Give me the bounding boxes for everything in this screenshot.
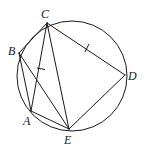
diagram-canvas: C B A E D [0, 0, 148, 155]
speck [86, 135, 87, 136]
label-b: B [8, 44, 16, 58]
geometry-figure: C B A E D [0, 0, 148, 155]
label-e: E [63, 133, 72, 147]
label-c: C [41, 7, 50, 21]
label-d: D [127, 69, 137, 83]
segment-de [69, 75, 125, 129]
label-a: A [22, 114, 31, 128]
